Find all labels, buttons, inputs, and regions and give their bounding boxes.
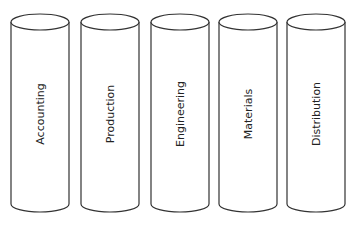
cylinder-production: Production	[81, 14, 139, 212]
cylinder-materials: Materials	[219, 14, 277, 212]
cylinder-accounting: Accounting	[11, 14, 69, 212]
cylinder-label: Distribution	[310, 82, 323, 146]
silo-diagram: Accounting Production Engineering Materi…	[0, 0, 358, 227]
cylinder-label: Production	[104, 85, 117, 144]
cylinder-engineering: Engineering	[151, 14, 209, 212]
cylinder-label: Materials	[242, 89, 255, 140]
cylinder-label: Engineering	[174, 81, 187, 147]
cylinder-distribution: Distribution	[287, 14, 345, 212]
cylinder-label: Accounting	[34, 83, 47, 144]
